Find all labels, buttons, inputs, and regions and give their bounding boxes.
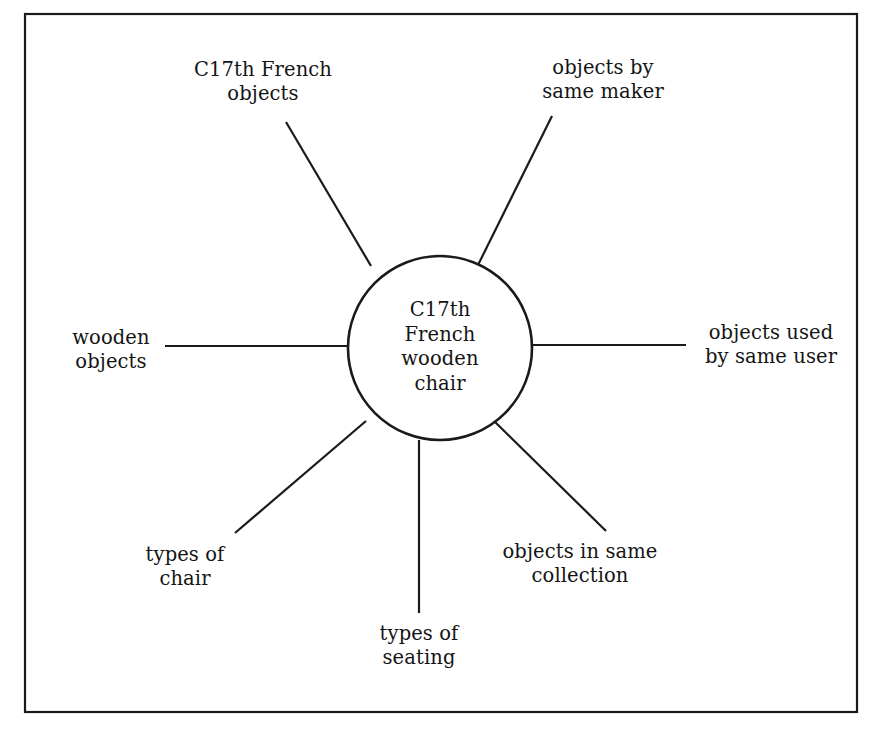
diagram-canvas: C17th French wooden chair C17th French o…: [0, 0, 876, 738]
spoke-line-c17th-french-objects: [286, 122, 371, 266]
node-label-objects-by-same-maker: objects by same maker: [513, 56, 693, 104]
node-label-types-of-chair: types of chair: [115, 543, 255, 591]
spoke-line-types-of-chair: [235, 421, 366, 533]
node-label-types-of-seating: types of seating: [349, 622, 489, 670]
node-label-wooden-objects: wooden objects: [46, 326, 176, 374]
center-node-label: C17th French wooden chair: [352, 298, 528, 396]
spoke-line-objects-in-same-collection: [492, 419, 606, 531]
spoke-line-objects-by-same-maker: [478, 116, 552, 265]
node-label-c17th-french-objects: C17th French objects: [168, 58, 358, 106]
node-label-objects-in-same-collection: objects in same collection: [475, 540, 685, 588]
node-label-objects-used-by-same-user: objects used by same user: [676, 321, 866, 369]
